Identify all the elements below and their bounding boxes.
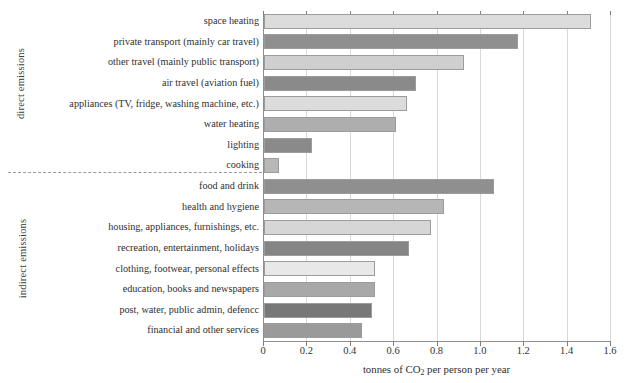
bar[interactable]: [264, 303, 372, 318]
x-tick-label: 1.0: [460, 345, 500, 356]
x-tick-label: 0.2: [286, 345, 326, 356]
bar[interactable]: [264, 117, 396, 132]
gridline: [567, 11, 568, 341]
bar[interactable]: [264, 76, 416, 91]
bar[interactable]: [264, 34, 518, 49]
bar[interactable]: [264, 158, 279, 173]
category-label: other travel (mainly public transport): [7, 52, 259, 73]
category-label: cooking: [7, 155, 259, 176]
category-label: financial and other services: [7, 320, 259, 341]
category-label: private transport (mainly car travel): [7, 32, 259, 53]
bar[interactable]: [264, 138, 312, 153]
bar[interactable]: [264, 199, 444, 214]
category-label: clothing, footwear, personal effects: [7, 259, 259, 280]
bar[interactable]: [264, 261, 375, 276]
x-tick-label: 1.2: [503, 345, 543, 356]
x-tick-label: 0.4: [330, 345, 370, 356]
bar[interactable]: [264, 323, 362, 338]
category-label: education, books and newspapers: [7, 279, 259, 300]
x-tick-label: 1.4: [547, 345, 587, 356]
category-label: lighting: [7, 135, 259, 156]
category-label: post, water, public admin, defencc: [7, 300, 259, 321]
x-tick-label: 1.6: [590, 345, 629, 356]
bar[interactable]: [264, 220, 431, 235]
category-label: food and drink: [7, 176, 259, 197]
bar[interactable]: [264, 241, 409, 256]
x-axis-title: tonnes of CO2 per person per year: [263, 363, 610, 375]
category-label: recreation, entertainment, holidays: [7, 238, 259, 259]
x-tick-label: 0.8: [417, 345, 457, 356]
gridline: [480, 11, 481, 341]
x-tick-label: 0.6: [373, 345, 413, 356]
bar[interactable]: [264, 14, 591, 29]
category-label: health and hygiene: [7, 197, 259, 218]
category-label: appliances (TV, fridge, washing machine,…: [7, 94, 259, 115]
bar[interactable]: [264, 179, 494, 194]
x-tick-label: 0: [243, 345, 283, 356]
axis-tick: [610, 11, 611, 15]
category-label: air travel (aviation fuel): [7, 73, 259, 94]
bar[interactable]: [264, 55, 464, 70]
category-label: housing, appliances, furnishings, etc.: [7, 217, 259, 238]
bar[interactable]: [264, 282, 375, 297]
plot-area: [263, 11, 610, 341]
bar[interactable]: [264, 96, 407, 111]
category-label: water heating: [7, 114, 259, 135]
emissions-bar-chart: direct emissions indirect emissions spac…: [0, 0, 629, 383]
gridline: [610, 11, 611, 341]
category-label: space heating: [7, 11, 259, 32]
gridline: [523, 11, 524, 341]
